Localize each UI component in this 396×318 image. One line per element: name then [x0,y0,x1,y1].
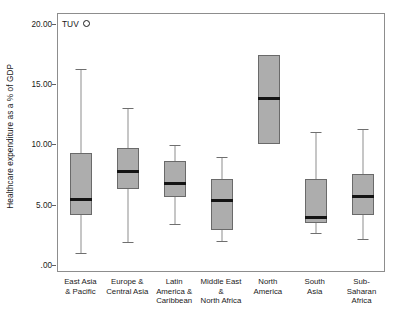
box-plot-group [245,14,292,271]
x-axis-category-label: East Asia& Pacific [57,277,104,296]
box-plot-group [152,14,199,271]
whisker-cap-lower [123,242,134,243]
y-axis-tick-labels: .005.0010.0015.0020.00 [18,0,52,318]
x-axis-category-label-line: Africa [338,296,385,306]
box-plot-group [339,14,386,271]
median-line [352,195,374,198]
x-axis-category-label-line: North Africa [198,296,245,306]
x-axis-category-label-line: America & [151,287,198,297]
whisker-upper [362,129,363,175]
boxplot-chart: Healthcare expenditure as a % of GDP .00… [0,0,396,318]
median-line [164,182,186,185]
whisker-cap-lower [357,239,368,240]
x-axis-category-label: LatinAmerica &Caribbean [151,277,198,306]
y-axis-tick-mark [52,84,56,85]
x-axis-category-label-line: Central Asia [104,287,151,297]
median-line [211,199,233,202]
whisker-cap-upper [76,69,87,70]
x-axis-category-label-line: North [244,277,291,287]
whisker-upper [315,132,316,179]
box-iqr [70,153,92,216]
y-axis-tick-label: 10.00 [32,140,53,149]
x-axis-category-label-line: Middle East [198,277,245,287]
x-axis-category-label: NorthAmerica [244,277,291,296]
whisker-cap-lower [310,233,321,234]
whisker-cap-upper [216,157,227,158]
x-axis-category-label-line: & Pacific [57,287,104,297]
box-iqr [117,148,139,189]
whisker-cap-lower [170,224,181,225]
median-line [305,216,327,219]
y-axis-tick-mark [52,205,56,206]
x-axis-category-label-line: America [244,287,291,297]
outlier-circle-icon [83,20,90,27]
whisker-lower [128,189,129,242]
plot-area [57,13,385,272]
x-axis-category-label-line: East Asia [57,277,104,287]
whisker-lower [81,215,82,252]
whisker-cap-upper [170,145,181,146]
x-axis-category-label-line: Asia [291,287,338,297]
whisker-lower [175,197,176,224]
y-axis-tick-label: 15.00 [32,80,53,89]
whisker-cap-lower [216,241,227,242]
x-axis-category-label: Middle East&North Africa [198,277,245,306]
median-line [258,97,280,100]
x-axis-category-label: Europe &Central Asia [104,277,151,296]
whisker-upper [81,69,82,152]
whisker-cap-upper [310,132,321,133]
x-axis-category-label-line: South [291,277,338,287]
x-axis-category-label-line: Saharan [338,287,385,297]
median-line [70,198,92,201]
y-axis-tick-mark [52,24,56,25]
box-plot-group [58,14,105,271]
box-iqr [211,179,233,230]
whisker-upper [175,145,176,161]
whisker-lower [362,215,363,239]
whisker-lower [315,223,316,234]
y-axis-tick-mark [52,265,56,266]
outlier-label: TUV [62,19,79,29]
y-axis-label-wrapper: Healthcare expenditure as a % of GDP [2,0,18,272]
whisker-cap-upper [123,108,134,109]
whisker-cap-upper [357,129,368,130]
y-axis-tick-mark [52,144,56,145]
whisker-lower [221,230,222,241]
whisker-cap-lower [76,253,87,254]
whisker-upper [221,157,222,179]
whisker-upper [128,108,129,148]
y-axis-tick-label: 20.00 [32,19,53,28]
y-axis-tick-label: 5.00 [36,200,52,209]
x-axis-category-label-line: Sub- [338,277,385,287]
x-axis-category-label-line: Caribbean [151,296,198,306]
box-plot-group [199,14,246,271]
box-plot-group [105,14,152,271]
median-line [117,170,139,173]
y-axis-tick-label: .00 [41,261,52,270]
x-axis-category-label: Sub-SaharanAfrica [338,277,385,306]
box-plot-group [292,14,339,271]
outlier-annotation: TUV [62,19,90,29]
x-axis-category-label-line: & [198,287,245,297]
x-axis-category-label-line: Latin [151,277,198,287]
x-axis-category-label-line: Europe & [104,277,151,287]
box-iqr [164,161,186,197]
y-axis-label: Healthcare expenditure as a % of GDP [6,64,15,209]
x-axis-category-label: SouthAsia [291,277,338,296]
